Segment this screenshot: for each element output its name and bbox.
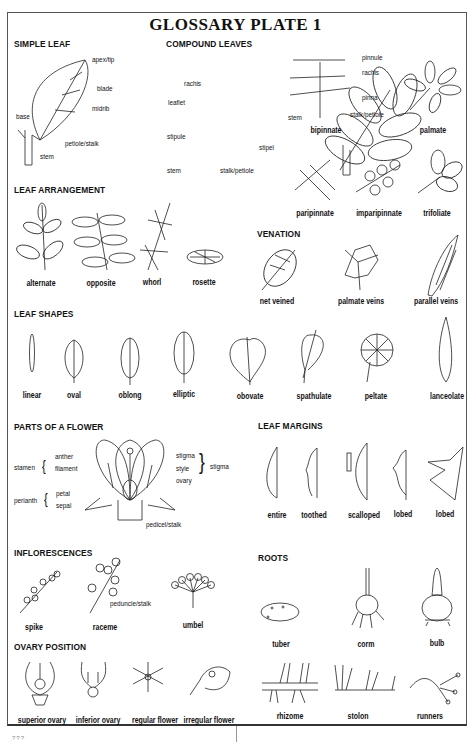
caption-rhizome: rhizome: [277, 711, 304, 721]
caption-irregular-flower: irregular flower: [184, 715, 235, 725]
ovary-position-illustrations: [0, 0, 240, 720]
caption-superior-ovary: superior ovary: [18, 715, 66, 725]
fold-mark: [236, 726, 237, 742]
page-number: ???: [12, 735, 25, 741]
caption-runners: runners: [417, 711, 443, 721]
caption-regular-flower: regular flower: [132, 715, 178, 725]
caption-stolon: stolon: [348, 711, 369, 721]
caption-inferior-ovary: inferior ovary: [76, 715, 121, 725]
